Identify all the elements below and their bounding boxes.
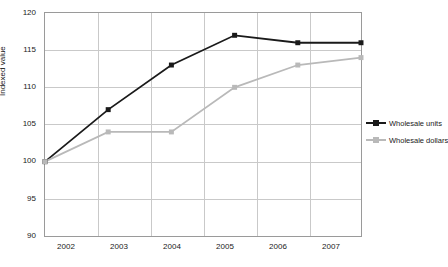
legend-label: Wholesale units	[389, 119, 442, 128]
y-tick-label: 105	[2, 119, 36, 128]
x-tick-label: 2004	[152, 242, 192, 251]
legend-item-wholesale-units: Wholesale units	[366, 118, 444, 128]
x-tick-label: 2007	[311, 242, 351, 251]
y-tick-label: 115	[2, 45, 36, 54]
x-tick-label: 2003	[99, 242, 139, 251]
x-tick-label: 2006	[258, 242, 298, 251]
chart-legend: Wholesale units Wholesale dollars	[366, 118, 444, 152]
series-lines	[45, 13, 361, 236]
x-tick-label: 2002	[46, 242, 86, 251]
legend-item-wholesale-dollars: Wholesale dollars	[366, 135, 444, 145]
legend-swatch-icon	[366, 118, 386, 128]
x-tick-label: 2005	[205, 242, 245, 251]
y-tick-label: 120	[2, 8, 36, 17]
plot-area	[44, 12, 362, 237]
legend-label: Wholesale dollars	[389, 136, 448, 145]
y-tick-label: 110	[2, 82, 36, 91]
y-tick-label: 90	[2, 231, 36, 240]
series-line-wholesale-units	[45, 35, 361, 161]
y-tick-label: 95	[2, 194, 36, 203]
legend-swatch-icon	[366, 135, 386, 145]
y-tick-label: 100	[2, 156, 36, 165]
series-line-wholesale-dollars	[45, 58, 361, 162]
series-markers-wholesale-units	[43, 33, 364, 164]
